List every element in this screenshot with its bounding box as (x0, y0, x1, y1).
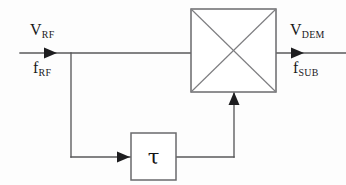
output-frequency-label: fSUB (293, 60, 319, 76)
lo-input-arrow-icon (229, 92, 240, 105)
input-frequency-label: fRF (33, 60, 51, 76)
output-arrow-icon (291, 48, 304, 59)
output-voltage-label: VDEM (290, 22, 325, 38)
input-voltage-label: VRF (30, 22, 54, 38)
input-voltage-subscript: RF (42, 29, 55, 40)
output-voltage-subscript: DEM (302, 29, 325, 40)
rf-input-arrow-icon (44, 48, 57, 59)
input-frequency-base: f (33, 59, 39, 76)
input-frequency-subscript: RF (39, 67, 52, 78)
input-voltage-base: V (30, 21, 42, 38)
block-diagram-canvas: VRF fRF VDEM fSUB τ (0, 0, 346, 185)
output-voltage-base: V (290, 21, 302, 38)
output-frequency-base: f (293, 59, 299, 76)
output-frequency-subscript: SUB (299, 67, 319, 78)
delay-symbol-label: τ (131, 133, 176, 180)
delay-input-arrow-icon (117, 152, 130, 163)
